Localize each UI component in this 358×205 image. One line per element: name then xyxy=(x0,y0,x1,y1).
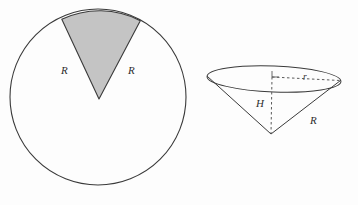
cone-base-ellipse xyxy=(207,63,342,94)
sector-radius-right-label: R xyxy=(127,64,135,76)
cone-slant-radius-label: R xyxy=(309,114,317,126)
cone-base-radius-label: r xyxy=(303,72,307,82)
sector-radius-left-label: R xyxy=(60,64,68,76)
geometry-figure-panel: R R H r R xyxy=(0,0,358,205)
cone-height-label: H xyxy=(255,97,265,109)
geometry-diagram-svg: R R H r R xyxy=(0,0,358,205)
cone-height-dashed-line xyxy=(271,77,272,134)
cone-figure: H r R xyxy=(207,63,342,134)
cone-lateral-surface xyxy=(208,77,341,135)
right-angle-marker xyxy=(272,71,279,77)
shaded-sector xyxy=(62,11,141,99)
circle-sector-figure: R R xyxy=(10,9,186,185)
